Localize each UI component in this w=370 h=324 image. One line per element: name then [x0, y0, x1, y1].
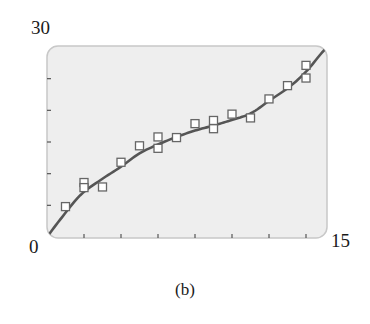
data-point-square-marker — [284, 82, 292, 90]
data-point-square-marker — [154, 133, 162, 141]
x-axis-max-label: 15 — [331, 231, 350, 250]
chart — [0, 0, 370, 324]
figure-caption: (b) — [0, 281, 370, 298]
data-point-square-marker — [99, 183, 107, 191]
data-point-square-marker — [210, 116, 218, 124]
data-point-square-marker — [302, 61, 310, 69]
data-point-square-marker — [154, 144, 162, 152]
data-point-square-marker — [80, 184, 88, 192]
data-point-square-marker — [117, 158, 125, 166]
data-point-square-marker — [228, 110, 236, 118]
data-point-square-marker — [302, 74, 310, 82]
data-point-square-marker — [210, 125, 218, 133]
plot-area — [47, 46, 327, 238]
data-point-square-marker — [136, 142, 144, 150]
data-point-square-marker — [62, 203, 70, 211]
data-point-square-marker — [173, 134, 181, 142]
origin-label: 0 — [29, 237, 39, 256]
data-point-square-marker — [191, 120, 199, 128]
data-point-square-marker — [265, 95, 273, 103]
data-point-square-marker — [247, 114, 255, 122]
y-axis-max-label: 30 — [31, 18, 50, 37]
